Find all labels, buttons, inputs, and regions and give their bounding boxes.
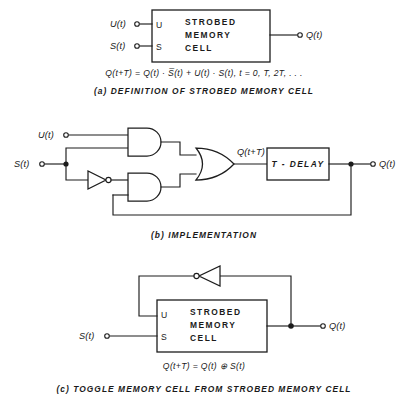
wire-s-branch-up-b <box>66 148 128 164</box>
caption-c: (c) TOGGLE MEMORY CELL FROM STROBED MEMO… <box>56 384 351 394</box>
or-gate-b <box>196 148 234 180</box>
and-gate-top-b <box>128 128 161 156</box>
wire-and-bottom-to-or-b <box>161 174 196 187</box>
label-s-input-b: S(t) <box>14 159 30 169</box>
block-label-line3-a: CELL <box>185 43 213 53</box>
pin-label-s-a: S <box>156 42 162 52</box>
circuit-diagram-canvas: STROBED MEMORY CELL U S U(t) S(t) Q(t) Q… <box>0 0 409 401</box>
and-gate-bottom-b <box>128 173 161 201</box>
feedback-inverter-c <box>199 266 220 286</box>
label-u-input-a: U(t) <box>110 19 126 29</box>
section-a-definition: STROBED MEMORY CELL U S U(t) S(t) Q(t) Q… <box>94 10 323 96</box>
wire-and-top-to-or-b <box>161 142 196 155</box>
caption-a: (a) DEFINITION OF STROBED MEMORY CELL <box>94 86 314 96</box>
terminal-u-input-b <box>64 133 69 138</box>
inverter-gate-b <box>88 171 106 189</box>
section-b-implementation: U(t) S(t) Q(t+T) T - DELAY <box>14 128 396 240</box>
block-label-line1-a: STROBED <box>185 17 236 27</box>
terminal-s-input-c <box>105 334 110 339</box>
caption-b: (b) IMPLEMENTATION <box>151 230 257 240</box>
block-label-line3-c: CELL <box>190 333 218 343</box>
equation-a: Q(t+T) = Q(t) · S̅(t) + U(t) · S(t), t =… <box>105 68 303 78</box>
pin-label-u-a: U <box>156 20 163 30</box>
terminal-q-output-a <box>298 33 303 38</box>
label-q-output-c: Q(t) <box>329 321 346 331</box>
pin-label-u-c: U <box>161 310 168 320</box>
block-label-line2-c: MEMORY <box>190 320 236 330</box>
label-or-output-b: Q(t+T) <box>237 147 265 157</box>
label-s-input-a: S(t) <box>110 41 126 51</box>
terminal-s-input-b <box>40 162 45 167</box>
delay-block-label-b: T - DELAY <box>272 159 325 169</box>
terminal-q-output-c <box>321 324 326 329</box>
pin-label-s-c: S <box>161 332 167 342</box>
wire-s-branch-down-b <box>66 164 88 180</box>
figure-root: STROBED MEMORY CELL U S U(t) S(t) Q(t) Q… <box>0 0 409 401</box>
block-label-line2-a: MEMORY <box>185 30 231 40</box>
section-c-toggle-cell: STROBED MEMORY CELL U S S(t) Q(t) Q(t+T)… <box>56 266 351 394</box>
equation-c: Q(t+T) = Q(t) ⊕ S(t) <box>163 361 245 371</box>
label-q-output-b: Q(t) <box>379 159 396 169</box>
label-u-input-b: U(t) <box>38 130 54 140</box>
feedback-inverter-bubble-c <box>194 273 199 278</box>
terminal-s-input-a <box>135 44 140 49</box>
terminal-q-output-b <box>371 162 376 167</box>
terminal-u-input-a <box>135 22 140 27</box>
label-q-output-a: Q(t) <box>306 30 323 40</box>
inverter-bubble-b <box>106 177 111 182</box>
label-s-input-c: S(t) <box>79 331 95 341</box>
block-label-line1-c: STROBED <box>190 307 241 317</box>
